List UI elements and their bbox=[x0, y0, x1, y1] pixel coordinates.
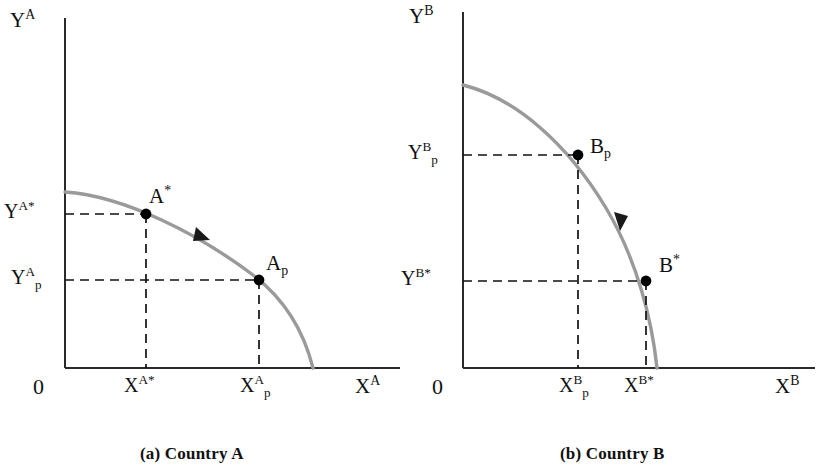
panel-b-x-tick-bstar: XB* bbox=[624, 374, 654, 397]
panel-a-x-axis-label: XA bbox=[355, 374, 380, 399]
panel-b-ppf-curve bbox=[463, 85, 657, 368]
panel-a-direction-arrow bbox=[193, 227, 210, 241]
panel-b-label-b-star: B* bbox=[659, 253, 680, 278]
panel-b-x-axis-label: XB bbox=[775, 374, 799, 399]
panel-b-label-b-p: Bp bbox=[590, 134, 611, 159]
panel-b-y-tick-bp: YBp bbox=[408, 141, 438, 164]
panel-a-graphic bbox=[0, 0, 819, 476]
panel-a-y-axis-label: YA bbox=[10, 8, 35, 33]
panel-a-label-a-p: Ap bbox=[266, 251, 288, 276]
panel-b-x-tick-bp: XBp bbox=[559, 374, 589, 397]
panel-a-y-tick-ap: YAp bbox=[11, 266, 42, 289]
figure-container: YA XA 0 YA* YAp XA* XAp A* Ap YB XB 0 YB… bbox=[0, 0, 819, 476]
panel-a-origin-label: 0 bbox=[33, 374, 44, 400]
panel-a-point-a-p bbox=[254, 275, 265, 286]
panel-a-x-tick-astar: XA* bbox=[124, 374, 155, 397]
panel-b-caption: (b) Country B bbox=[560, 444, 665, 464]
panel-b-y-axis-label: YB bbox=[409, 4, 433, 29]
panel-a-y-tick-astar: YA* bbox=[4, 200, 35, 223]
panel-b-point-b-p bbox=[573, 150, 584, 161]
panel-a-x-tick-ap: XAp bbox=[240, 374, 271, 397]
panel-b-point-b-star bbox=[641, 276, 652, 287]
panel-b-origin-label: 0 bbox=[432, 374, 443, 400]
panel-a-point-a-star bbox=[141, 209, 152, 220]
panel-a-caption: (a) Country A bbox=[140, 444, 244, 464]
panel-b-y-tick-bstar: YB* bbox=[401, 267, 431, 290]
panel-a-label-a-star: A* bbox=[149, 184, 171, 209]
